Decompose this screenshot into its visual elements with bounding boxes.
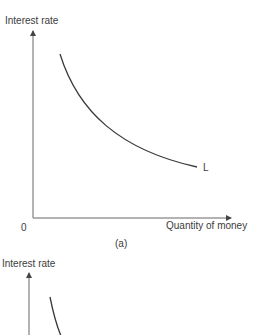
panel-b-y-label: Interest rate	[2, 258, 55, 269]
panel-a-origin-label: 0	[21, 222, 27, 233]
curve-l	[60, 54, 197, 167]
panel-a-y-label: Interest rate	[5, 15, 58, 26]
diagram-canvas	[0, 0, 263, 335]
panel-a-axes	[33, 31, 231, 218]
panel-a-x-label: Quantity of money	[166, 220, 247, 231]
curve-b	[50, 297, 61, 335]
panel-a-caption: (a)	[115, 238, 127, 249]
curve-l-label: L	[203, 162, 209, 173]
